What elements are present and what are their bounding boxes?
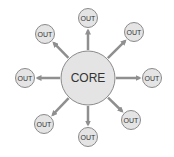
out-node-bottom-label: OUT xyxy=(81,134,97,141)
out-node-bottom-right-label: OUT xyxy=(124,117,140,124)
arrow-bottom-right xyxy=(108,98,122,112)
out-node-right: OUT xyxy=(143,69,162,88)
hub-diagram: COREOUTOUTOUTOUTOUTOUTOUTOUT xyxy=(0,0,174,157)
out-node-bottom: OUT xyxy=(79,128,98,147)
nodes: COREOUTOUTOUTOUTOUTOUTOUTOUT xyxy=(16,9,162,147)
arrow-bottom-left xyxy=(53,98,69,115)
out-node-right-label: OUT xyxy=(145,75,161,82)
out-node-top-right-label: OUT xyxy=(127,29,143,36)
out-node-bottom-right: OUT xyxy=(122,111,141,130)
arrow-top-left xyxy=(54,43,69,58)
out-node-top-left: OUT xyxy=(36,25,55,44)
out-node-bottom-left: OUT xyxy=(35,115,54,134)
out-node-top-left-label: OUT xyxy=(38,31,54,38)
core-node: CORE xyxy=(61,51,115,105)
out-node-left-label: OUT xyxy=(18,75,34,82)
core-node-label: CORE xyxy=(71,71,106,85)
out-node-top-right: OUT xyxy=(125,23,144,42)
out-node-left: OUT xyxy=(16,69,35,88)
arrow-top-right xyxy=(108,41,125,58)
out-node-top: OUT xyxy=(79,9,98,28)
out-node-bottom-left-label: OUT xyxy=(37,121,53,128)
out-node-top-label: OUT xyxy=(81,15,97,22)
